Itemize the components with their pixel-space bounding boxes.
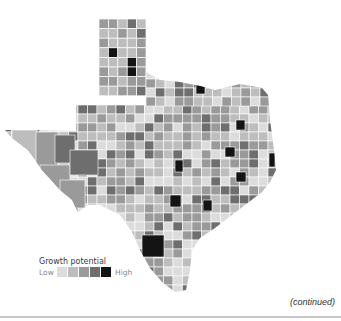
county [88,276,98,285]
county [2,204,12,213]
county [202,123,212,132]
legend-title: Growth potential [39,257,106,266]
county [268,96,278,105]
county [213,70,223,79]
county [145,195,155,204]
county [69,222,79,231]
county [221,123,231,132]
county [78,132,88,141]
county [107,123,117,132]
county [145,204,155,213]
county [230,240,240,249]
county [12,177,22,186]
county [221,168,231,177]
county [203,70,213,79]
county [12,159,22,168]
county [40,177,50,186]
county [12,150,22,159]
county [99,57,108,67]
county [164,267,174,276]
county [145,132,155,141]
county [97,141,107,150]
county [170,195,181,207]
county [21,168,31,177]
county [12,231,22,240]
county [118,38,127,48]
county [2,150,12,159]
county [211,285,221,294]
county [249,213,259,222]
county [192,132,202,141]
county [259,204,269,213]
county [270,70,280,79]
county [165,70,175,79]
county [78,114,88,123]
county [146,70,156,79]
county [135,177,145,186]
county [2,213,12,222]
county [40,276,50,285]
county [88,105,98,114]
county [116,159,126,168]
county [118,86,127,96]
county [31,105,41,114]
county [135,159,145,168]
county [69,294,79,303]
county [97,159,107,168]
county [230,267,240,276]
county [278,222,288,231]
county [249,285,259,294]
county [118,19,127,29]
county [40,186,50,195]
county [278,186,288,195]
county [221,195,231,204]
county [202,150,212,159]
county [118,48,127,58]
county [97,195,107,204]
county [192,285,202,294]
county [126,204,136,213]
county [221,204,231,213]
county [135,150,145,159]
county [97,285,107,294]
legend-swatch-2 [68,267,78,277]
county [268,186,278,195]
county [12,186,22,195]
county [249,258,259,267]
county [183,267,193,276]
county [21,114,31,123]
county [31,294,41,303]
county [183,141,193,150]
county [183,213,193,222]
county [107,276,117,285]
county [268,141,278,150]
county [268,285,278,294]
county [192,240,202,249]
county [50,123,60,132]
county [97,231,107,240]
county [249,168,259,177]
county [2,186,12,195]
county [126,276,136,285]
county [268,213,278,222]
county [183,240,193,249]
county [135,222,145,231]
county [164,150,174,159]
county [240,159,250,168]
county [21,240,31,249]
county [12,294,22,303]
county [164,276,174,285]
county [116,276,126,285]
county [12,276,22,285]
legend-swatch-1 [57,267,67,277]
county [107,105,117,114]
county [21,204,31,213]
county [127,57,136,67]
county [97,294,107,303]
legend-high-label: High [115,268,132,277]
county [278,105,288,114]
county [154,123,164,132]
county [126,222,136,231]
county [183,123,193,132]
county [99,48,108,58]
